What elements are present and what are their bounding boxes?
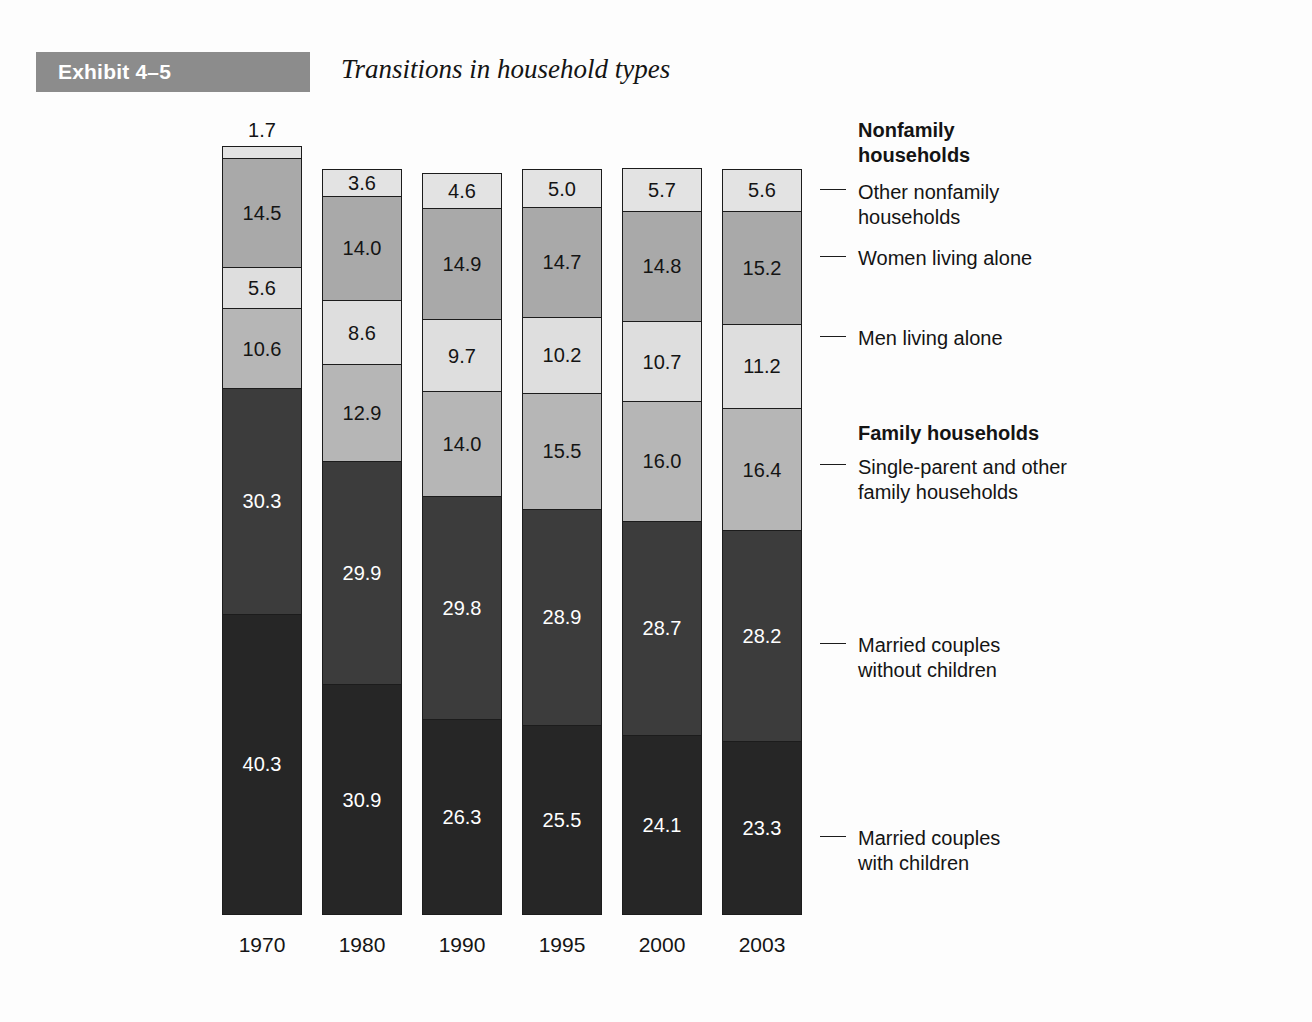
legend-leader-line: [820, 464, 846, 465]
segment-value-label: 28.9: [543, 607, 582, 627]
bar-segment: 28.9: [522, 509, 602, 725]
segment-value-label: 30.9: [343, 790, 382, 810]
segment-value-label: 24.1: [643, 815, 682, 835]
bar-segment: 28.7: [622, 521, 702, 735]
bar-column-2000: 24.128.716.010.714.85.7: [622, 168, 702, 915]
bar-column-1995: 25.528.915.510.214.75.0: [522, 168, 602, 915]
bar-segment: 25.5: [522, 725, 602, 915]
segment-value-label: 14.0: [343, 238, 382, 258]
bar-segment: 3.6: [322, 169, 402, 196]
legend-label-men-alone: Men living alone: [858, 326, 1003, 351]
bar-segment: 10.7: [622, 321, 702, 401]
bar-segment: 14.5: [222, 158, 302, 266]
x-axis-label-2003: 2003: [722, 933, 802, 957]
bar-column-1990: 26.329.814.09.714.94.6: [422, 168, 502, 915]
segment-value-label: 40.3: [243, 754, 282, 774]
x-axis-label-1970: 1970: [222, 933, 302, 957]
segment-value-label: 14.8: [643, 256, 682, 276]
segment-value-label: 23.3: [743, 818, 782, 838]
segment-value-label: 15.2: [743, 258, 782, 278]
bar-segment: 24.1: [622, 735, 702, 915]
legend-label-married-without: Married couples without children: [858, 633, 1000, 683]
bar-segment: 23.3: [722, 741, 802, 915]
bar-segment: 14.0: [422, 391, 502, 496]
bar-segment: 11.2: [722, 324, 802, 408]
bar-segment: 29.8: [422, 496, 502, 719]
legend-label-single-parent: Single-parent and other family household…: [858, 455, 1067, 505]
exhibit-page: Exhibit 4–5 Transitions in household typ…: [0, 0, 1312, 1022]
legend-leader-line: [820, 336, 846, 337]
segment-value-label: 8.6: [348, 323, 376, 343]
bar-segment: 28.2: [722, 530, 802, 741]
segment-value-label: 14.9: [443, 254, 482, 274]
bar-segment: 16.0: [622, 401, 702, 521]
segment-value-label: 14.0: [443, 434, 482, 454]
bar-segment: 8.6: [322, 300, 402, 364]
bar-segment: 14.8: [622, 211, 702, 322]
segment-value-label: 11.2: [743, 356, 780, 376]
segment-value-label: 16.0: [643, 451, 682, 471]
bar-segment: 40.3: [222, 614, 302, 915]
bar-segment: 5.6: [722, 169, 802, 211]
legend-label-other-nonfamily: Other nonfamily households: [858, 180, 999, 230]
segment-value-label: 14.7: [543, 252, 582, 272]
segment-value-label: 28.7: [643, 618, 682, 638]
segment-value-label: 5.6: [248, 278, 276, 298]
segment-value-label: 5.6: [748, 180, 776, 200]
bar-segment: 29.9: [322, 461, 402, 684]
segment-value-label: 10.6: [243, 339, 282, 359]
legend-leader-line: [820, 256, 846, 257]
segment-value-label: 30.3: [243, 491, 282, 511]
bar-segment: 16.4: [722, 408, 802, 531]
legend-leader-line: [820, 189, 846, 190]
bar-segment: 26.3: [422, 719, 502, 915]
legend-label-family-heading: Family households: [858, 421, 1039, 446]
segment-value-label: 9.7: [448, 346, 476, 366]
bar-segment: 30.9: [322, 684, 402, 915]
bar-column-1970: 40.330.310.65.614.51.7: [222, 168, 302, 915]
bar-column-2003: 23.328.216.411.215.25.6: [722, 168, 802, 915]
x-axis-label-1990: 1990: [422, 933, 502, 957]
segment-value-label: 1.7: [248, 120, 276, 140]
segment-value-label: 5.7: [648, 180, 676, 200]
bar-segment: 10.2: [522, 317, 602, 393]
bar-segment: 30.3: [222, 388, 302, 614]
legend-label-women-alone: Women living alone: [858, 246, 1032, 271]
x-axis-label-2000: 2000: [622, 933, 702, 957]
segment-value-label: 16.4: [743, 460, 782, 480]
segment-value-label: 3.6: [348, 173, 376, 193]
bar-segment: 10.6: [222, 308, 302, 387]
legend-leader-line: [820, 836, 846, 837]
x-axis-label-1980: 1980: [322, 933, 402, 957]
x-axis-label-1995: 1995: [522, 933, 602, 957]
segment-value-label: 29.8: [443, 598, 482, 618]
bar-segment: 12.9: [322, 364, 402, 460]
bar-segment: 15.5: [522, 393, 602, 509]
segment-value-label: 14.5: [243, 203, 282, 223]
segment-value-label: 10.7: [643, 352, 682, 372]
segment-value-label: 15.5: [543, 441, 582, 461]
segment-value-label: 5.0: [548, 179, 576, 199]
segment-value-label: 25.5: [543, 810, 582, 830]
bar-segment: 4.6: [422, 173, 502, 207]
bar-segment: 9.7: [422, 319, 502, 391]
legend-leader-line: [820, 643, 846, 644]
segment-value-label: 29.9: [343, 563, 382, 583]
segment-value-label: 28.2: [743, 626, 782, 646]
bar-column-1980: 30.929.912.98.614.03.6: [322, 168, 402, 915]
stacked-bar-chart: 40.330.310.65.614.51.7197030.929.912.98.…: [0, 0, 1312, 1022]
bar-segment: 14.0: [322, 196, 402, 301]
segment-value-label: 12.9: [343, 403, 382, 423]
bar-segment: 5.7: [622, 168, 702, 211]
bar-segment: 14.9: [422, 208, 502, 319]
segment-value-label: 4.6: [448, 181, 476, 201]
segment-value-label: 10.2: [543, 345, 582, 365]
bar-segment: 14.7: [522, 207, 602, 317]
bar-segment: 15.2: [722, 211, 802, 325]
bar-segment: 5.0: [522, 169, 602, 206]
legend-label-nonfamily-heading: Nonfamily households: [858, 118, 970, 168]
legend-label-married-with: Married couples with children: [858, 826, 1000, 876]
bar-segment: 5.6: [222, 267, 302, 309]
bar-segment: 1.7: [222, 146, 302, 159]
segment-value-label: 26.3: [443, 807, 482, 827]
